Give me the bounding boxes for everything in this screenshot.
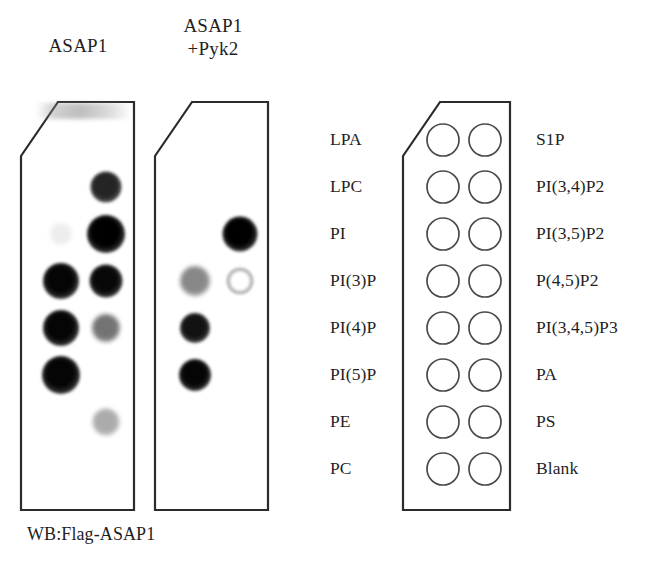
lipid-label-pi34p2: PI(3,4)P2	[536, 176, 604, 197]
membrane-outline-asap1-pyk2	[152, 100, 270, 512]
lipid-label-blank: Blank	[536, 458, 578, 479]
membrane-outline-asap1	[18, 100, 136, 512]
lipid-label-pi35p2: PI(3,5)P2	[536, 223, 604, 244]
lipid-label-pi3p: PI(3)P	[330, 270, 376, 291]
blot-asap1-pyk2	[152, 100, 270, 512]
western-blot-caption: WB:Flag-ASAP1	[27, 524, 155, 545]
lipid-strip-key-outline	[400, 100, 528, 512]
lipid-strip-key	[400, 100, 528, 512]
blot-asap1	[18, 100, 136, 512]
lipid-overlay-figure: ASAP1 ASAP1 +Pyk2 LPALPCPIPI(3)PPI(4)PPI…	[0, 0, 660, 577]
lipid-label-pi5p: PI(5)P	[330, 364, 376, 385]
blot-title-asap1: ASAP1	[18, 34, 138, 57]
lipid-label-pc: PC	[330, 458, 352, 479]
blot-title-asap1-pyk2: ASAP1 +Pyk2	[152, 14, 274, 60]
lipid-label-s1p: S1P	[536, 129, 565, 150]
lipid-label-lpc: LPC	[330, 176, 362, 197]
lipid-label-p45p2: P(4,5)P2	[536, 270, 599, 291]
lipid-label-pe: PE	[330, 411, 351, 432]
lipid-label-pi4p: PI(4)P	[330, 317, 376, 338]
lipid-label-pa: PA	[536, 364, 557, 385]
lipid-label-pi: PI	[330, 223, 346, 244]
lipid-label-ps: PS	[536, 411, 556, 432]
lipid-label-lpa: LPA	[330, 129, 362, 150]
lipid-label-pi345p3: PI(3,4,5)P3	[536, 317, 618, 338]
